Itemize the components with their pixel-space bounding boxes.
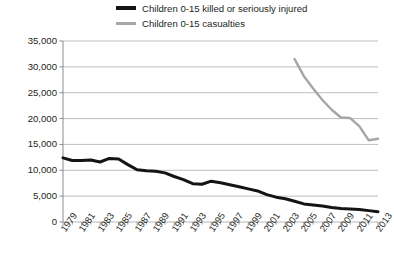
x-tick-label: 1999 (244, 211, 264, 234)
x-tick-label: 1987 (133, 211, 153, 234)
x-tick-label: 2011 (355, 211, 375, 233)
x-tick-label: 1985 (114, 211, 134, 234)
x-tick-label: 2001 (262, 211, 282, 234)
x-tick-label: 2005 (299, 211, 319, 234)
x-tick-label: 2007 (318, 211, 338, 234)
x-tick-label: 1993 (188, 211, 208, 234)
x-tick-label: 1991 (170, 211, 190, 234)
x-tick-label: 2003 (281, 211, 301, 234)
x-tick-label: 1995 (207, 211, 227, 234)
x-tick-label: 2009 (336, 211, 356, 234)
x-tick-label: 1979 (59, 211, 79, 234)
x-tick-label: 2013 (374, 211, 394, 234)
x-tick-label: 1989 (151, 211, 171, 234)
x-tick-label: 1997 (225, 211, 245, 234)
x-tick-label: 1983 (96, 211, 116, 234)
x-tick-label: 1981 (77, 211, 97, 234)
